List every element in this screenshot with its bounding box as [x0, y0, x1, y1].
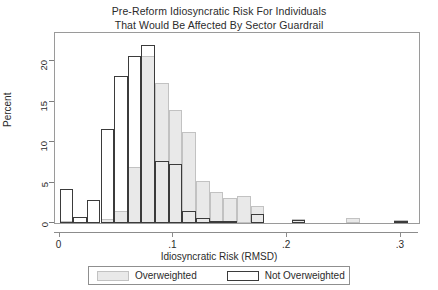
x-tick-mark: [59, 232, 60, 237]
y-tick-label: 5: [39, 182, 50, 187]
bar-not-overweighted: [101, 129, 115, 223]
x-axis-line: [54, 232, 418, 233]
x-tick-label: .1: [168, 239, 176, 250]
y-tick-label: 20: [39, 60, 50, 71]
bar-not-overweighted: [128, 56, 142, 223]
x-tick-mark: [286, 232, 287, 237]
x-tick-label: .3: [396, 239, 404, 250]
plot-area: [55, 33, 419, 223]
bar-overweighted: [237, 196, 251, 223]
y-axis-title: Percent: [2, 93, 13, 127]
x-axis: Idiosyncratic Risk (RMSD) 0.1.2.3: [0, 222, 438, 262]
x-tick-mark: [172, 232, 173, 237]
y-tick-label: 15: [39, 101, 50, 112]
x-axis-title: Idiosyncratic Risk (RMSD): [0, 251, 438, 262]
y-tick-label: 10: [39, 141, 50, 152]
bar-overweighted: [182, 132, 196, 223]
bar-overweighted: [210, 192, 224, 223]
histogram-figure: Pre-Reform Idiosyncratic Risk For Indivi…: [0, 0, 438, 290]
x-tick-label: 0: [56, 239, 62, 250]
chart-legend: Overweighted Not Overweighted: [88, 266, 350, 285]
bar-overweighted: [223, 198, 237, 223]
bar-not-overweighted: [155, 161, 169, 223]
y-axis: Percent 05101520: [0, 0, 54, 224]
bar-not-overweighted: [169, 164, 183, 223]
bar-not-overweighted: [87, 200, 101, 223]
bar-not-overweighted: [60, 189, 74, 223]
plot-frame: [54, 32, 420, 224]
not-overweighted-swatch-icon: [227, 271, 259, 281]
chart-title-line-2: That Would Be Affected By Sector Guardra…: [0, 18, 438, 32]
x-tick-mark: [400, 232, 401, 237]
chart-title-line-1: Pre-Reform Idiosyncratic Risk For Indivi…: [0, 4, 438, 18]
legend-entry-not-overweighted: Not Overweighted: [219, 270, 345, 281]
bar-not-overweighted: [114, 76, 128, 223]
legend-entry-overweighted: Overweighted: [89, 270, 197, 281]
legend-label-overweighted: Overweighted: [135, 270, 197, 281]
bar-overweighted: [196, 181, 210, 223]
chart-title: Pre-Reform Idiosyncratic Risk For Indivi…: [0, 4, 438, 32]
x-tick-label: .2: [282, 239, 290, 250]
overweighted-swatch-icon: [97, 271, 129, 281]
legend-label-not-overweighted: Not Overweighted: [265, 270, 345, 281]
bar-not-overweighted: [141, 45, 155, 223]
